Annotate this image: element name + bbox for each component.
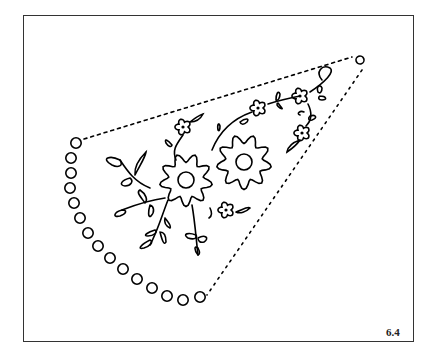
flower-center xyxy=(236,154,252,170)
embroidery-pattern xyxy=(0,0,435,357)
eyelet-circle xyxy=(93,241,103,251)
curl-tendril xyxy=(310,67,331,92)
eyelet-circle xyxy=(195,292,205,302)
leaf-icon xyxy=(240,119,248,124)
eyelet-circle xyxy=(118,264,128,274)
eyelet-circle xyxy=(69,198,79,208)
eyelet-circle xyxy=(355,55,365,65)
flower-dot xyxy=(301,132,303,134)
eyelet-circle xyxy=(132,274,142,284)
leaf-icon xyxy=(160,232,166,243)
leaf-icon xyxy=(277,103,282,109)
leaf-icon xyxy=(165,218,171,228)
eyelet-circle xyxy=(65,183,75,193)
leaf-icon xyxy=(317,86,322,93)
leaf-icon xyxy=(276,92,280,100)
leaf-icon xyxy=(218,124,220,131)
eyelet-circle xyxy=(162,291,172,301)
leaf-icon xyxy=(138,190,146,203)
eyelet-circle xyxy=(71,138,81,148)
figure-label: 6.4 xyxy=(386,326,400,338)
flower-center xyxy=(178,172,194,188)
stem-right xyxy=(306,104,311,126)
leaf-icon xyxy=(140,240,151,248)
eyelet-circle xyxy=(83,228,93,238)
eyelet-circle xyxy=(66,168,76,178)
eyelet-circle xyxy=(75,213,85,223)
flower-dot xyxy=(257,107,259,109)
leaf-icon xyxy=(135,152,146,175)
leaf-icon xyxy=(121,178,131,186)
leaf-icon xyxy=(107,158,122,167)
eyelet-circle xyxy=(105,253,115,263)
leaf-icon xyxy=(236,207,250,212)
leaf-icon xyxy=(309,115,316,120)
eyelet-circle xyxy=(66,153,76,163)
leaf-icon xyxy=(190,114,203,122)
leaf-icon xyxy=(149,205,154,216)
bud-icon xyxy=(209,208,211,218)
leaf-icon xyxy=(165,140,172,146)
large-flower-icon xyxy=(160,155,212,206)
leaf-icon xyxy=(198,236,207,242)
flower-dot xyxy=(182,126,184,128)
eyelet-circle xyxy=(147,283,157,293)
leaf-icon xyxy=(115,210,126,216)
eyelet-circle xyxy=(178,295,188,305)
leaf-icon xyxy=(287,140,300,152)
leaf-icon xyxy=(319,96,326,100)
large-flower-icon xyxy=(217,136,271,189)
leaf-icon xyxy=(186,234,197,239)
leaf-icon xyxy=(298,111,304,115)
flower-dot xyxy=(225,209,227,211)
